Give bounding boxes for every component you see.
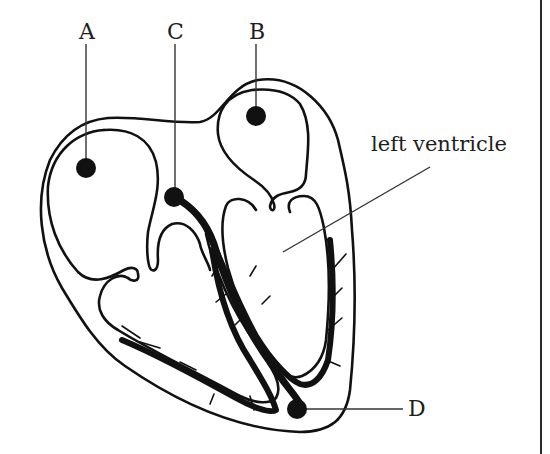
heart-diagram: A C B left ventricle D xyxy=(0,0,550,454)
left-ventricle-chamber xyxy=(222,196,328,377)
label-a: A xyxy=(79,21,95,43)
label-c: C xyxy=(167,21,184,43)
right-atrium xyxy=(104,130,210,271)
conduction-bundle xyxy=(122,197,333,411)
heart-illustration xyxy=(0,0,550,454)
marker-dot-a xyxy=(76,158,96,178)
right-border-line xyxy=(540,0,542,454)
marker-dot-c xyxy=(164,187,184,207)
label-b: B xyxy=(249,21,265,43)
label-left-ventricle: left ventricle xyxy=(371,134,507,155)
marker-dot-b xyxy=(246,106,266,126)
left-atrium xyxy=(218,90,309,211)
marker-dot-d xyxy=(287,399,307,419)
label-d: D xyxy=(408,398,426,420)
